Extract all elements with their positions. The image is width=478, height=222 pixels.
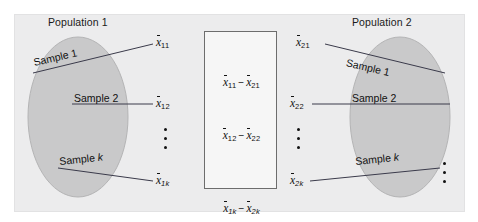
mean-symbol: x	[223, 202, 228, 214]
mean-symbol: x	[156, 36, 161, 48]
population-2-sample-2-label: Sample 2	[352, 92, 396, 104]
mean-symbol: x	[246, 202, 251, 214]
mean-subscript: 12	[228, 134, 237, 143]
difference-row-k: x1k−x2k	[205, 202, 278, 216]
population-2-sample-k-mean: x2k	[290, 174, 303, 188]
population-2-sample-2-mean: x22	[290, 97, 304, 111]
dot	[443, 162, 446, 165]
dot	[443, 171, 446, 174]
population-2-title: Population 2	[352, 16, 412, 28]
mean-subscript: 2k	[252, 207, 260, 216]
dot	[297, 146, 300, 149]
population-1-sample-2-label: Sample 2	[74, 92, 118, 104]
population-2-means-ellipsis	[297, 128, 300, 149]
mean-subscript: 2k	[295, 179, 303, 188]
minus-sign: −	[237, 130, 247, 141]
mean-symbol: x	[156, 97, 161, 109]
mean-symbol: x	[296, 36, 301, 48]
mean-symbol: x	[290, 174, 295, 186]
dot	[297, 137, 300, 140]
difference-box: x11−x21 x12−x22 x1k−x2k	[204, 31, 277, 189]
mean-subscript: 12	[161, 102, 170, 111]
sample-k-variable: k	[97, 150, 103, 162]
population-1-sample-k-mean: x1k	[156, 174, 169, 188]
mean-symbol: x	[223, 76, 228, 88]
mean-symbol: x	[246, 129, 251, 141]
population-1-title: Population 1	[48, 16, 108, 28]
mean-subscript: 22	[295, 102, 304, 111]
population-1-means-ellipsis	[164, 128, 167, 149]
figure-root: Population 1 Population 2 Sample 1 Sampl…	[0, 0, 478, 222]
difference-row-2: x12−x22	[205, 129, 278, 143]
sample-k-variable: k	[393, 150, 399, 162]
dot	[164, 137, 167, 140]
mean-subscript: 22	[252, 134, 261, 143]
difference-row-1: x11−x21	[205, 76, 278, 90]
mean-symbol: x	[290, 97, 295, 109]
mean-subscript: 21	[301, 41, 310, 50]
dot	[443, 180, 446, 183]
population-1-sample-1-mean: x11	[156, 36, 169, 50]
dot	[164, 146, 167, 149]
minus-sign: −	[237, 203, 247, 214]
mean-symbol: x	[246, 76, 251, 88]
minus-sign: −	[236, 77, 246, 88]
difference-box-ellipsis	[443, 162, 446, 183]
mean-subscript: 1k	[228, 207, 236, 216]
dot	[297, 128, 300, 131]
population-1-sample-2-mean: x12	[156, 97, 170, 111]
population-2-sample-1-mean: x21	[296, 36, 310, 50]
mean-subscript: 11	[161, 41, 169, 50]
mean-symbol: x	[156, 174, 161, 186]
mean-subscript: 1k	[161, 179, 169, 188]
dot	[164, 128, 167, 131]
mean-subscript: 21	[251, 81, 260, 90]
mean-symbol: x	[223, 129, 228, 141]
